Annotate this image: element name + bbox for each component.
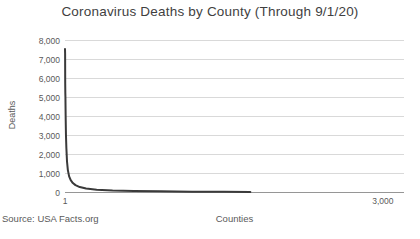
deaths-series-line (65, 49, 250, 192)
x-axis-title: Counties (65, 213, 404, 224)
y-tick-label: 1,000 (39, 169, 61, 179)
y-tick-label: 6,000 (39, 74, 61, 84)
x-tick-label: 1 (63, 196, 68, 206)
y-tick-label: 4,000 (39, 112, 61, 122)
y-tick-label: 5,000 (39, 93, 61, 103)
x-tick-label: 3,000 (372, 196, 394, 206)
y-tick-label: 8,000 (39, 36, 61, 46)
chart-window: Coronavirus Deaths by County (Through 9/… (0, 0, 420, 239)
y-tick-label: 7,000 (39, 55, 61, 65)
y-tick-label: 2,000 (39, 150, 61, 160)
plot-area: 01,0002,0003,0004,0005,0006,0007,0008,00… (0, 0, 420, 239)
y-tick-label: 3,000 (39, 131, 61, 141)
source-note: Source: USA Facts.org (2, 213, 99, 224)
y-tick-label: 0 (55, 188, 60, 198)
